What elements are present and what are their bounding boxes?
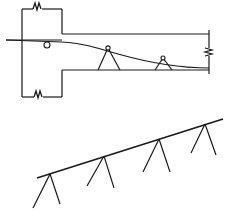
right-break-symbol-icon bbox=[205, 48, 212, 56]
tower-1-left-leg bbox=[33, 174, 50, 208]
support-1-node-marker bbox=[106, 46, 110, 50]
tower-2-right-leg bbox=[104, 156, 114, 188]
support-1-right-leg bbox=[108, 48, 120, 70]
tower-3 bbox=[143, 139, 170, 172]
tower-1 bbox=[33, 174, 60, 208]
tower-4-right-leg bbox=[205, 124, 216, 155]
support-1-left-leg bbox=[98, 48, 108, 70]
top-break-symbol-icon bbox=[33, 3, 41, 10]
cable-curve bbox=[6, 40, 209, 68]
tower-1-right-leg bbox=[50, 174, 60, 204]
hinge-circle-icon bbox=[44, 42, 50, 48]
elevation-view bbox=[33, 119, 223, 208]
plan-view bbox=[6, 3, 212, 98]
diagram-root bbox=[0, 0, 225, 212]
engineering-diagram bbox=[0, 0, 225, 212]
bottom-break-symbol-icon bbox=[34, 91, 42, 98]
support-2-node-marker bbox=[161, 56, 165, 60]
tower-3-right-leg bbox=[159, 139, 170, 172]
inclined-cable bbox=[37, 119, 223, 178]
